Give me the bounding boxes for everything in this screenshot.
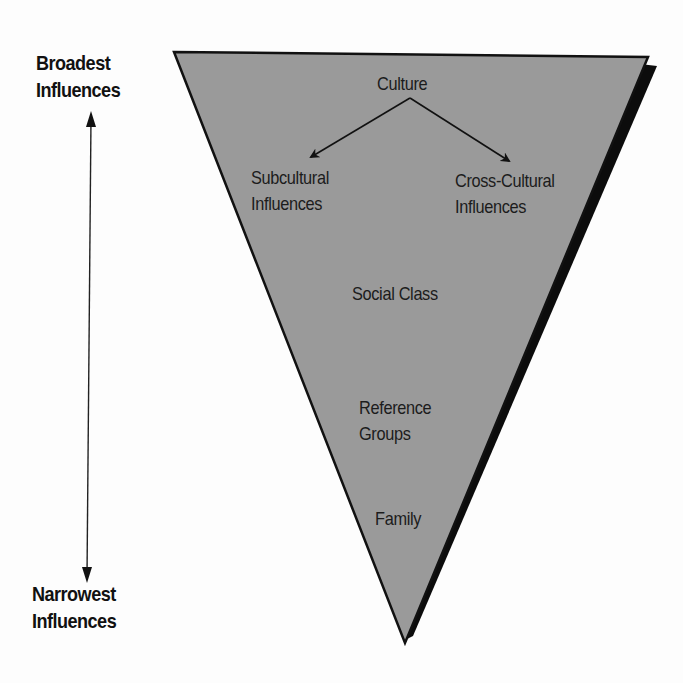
node-cross-cultural-influences: Cross-Cultural Influences <box>455 168 555 220</box>
diagram-canvas: Broadest Influences Narrowest Influences… <box>0 0 683 683</box>
arrow-up-icon <box>86 111 96 127</box>
node-subcultural-influences: Subcultural Influences <box>251 165 329 217</box>
label-broadest-line2: Influences <box>36 76 120 103</box>
node-reference-groups: Reference Groups <box>359 395 431 447</box>
node-culture-label: Culture <box>377 71 427 97</box>
node-family-label: Family <box>375 506 421 532</box>
node-cross-cultural-line2: Influences <box>455 194 555 220</box>
node-social-class-label: Social Class <box>352 281 438 307</box>
node-reference-groups-line1: Reference <box>359 395 431 421</box>
label-narrowest-line1: Narrowest <box>32 580 116 607</box>
node-culture: Culture <box>377 71 427 97</box>
label-broadest-influences: Broadest Influences <box>36 49 120 103</box>
node-reference-groups-line2: Groups <box>359 421 431 447</box>
node-social-class: Social Class <box>352 281 438 307</box>
node-family: Family <box>375 506 421 532</box>
label-narrowest-line2: Influences <box>32 607 116 634</box>
node-subcultural-line2: Influences <box>251 191 329 217</box>
node-subcultural-line1: Subcultural <box>251 165 329 191</box>
node-cross-cultural-line1: Cross-Cultural <box>455 168 555 194</box>
label-broadest-line1: Broadest <box>36 49 120 76</box>
influence-triangle <box>174 52 648 643</box>
scale-arrow-line <box>87 118 91 576</box>
label-narrowest-influences: Narrowest Influences <box>32 580 116 634</box>
